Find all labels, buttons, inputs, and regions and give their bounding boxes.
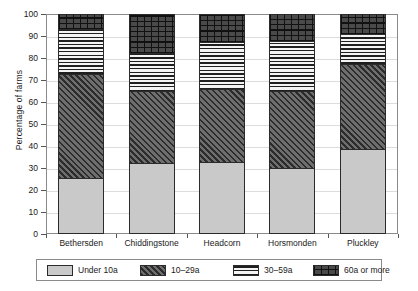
legend-label: 60a or more [344,265,390,275]
stacked-bar[interactable] [340,14,386,234]
legend-swatch-icon [233,265,259,276]
y-axis-label: 0 [0,230,38,239]
y-axis-label: 20 [0,186,38,195]
bar-segment[interactable] [270,42,314,92]
y-axis-label: 40 [0,142,38,151]
y-axis-label: 60 [0,98,38,107]
stacked-bar[interactable] [269,14,315,234]
bar-group [199,14,245,234]
stacked-bar-chart: Percentage of farms 01020304050607080901… [0,0,418,291]
bar-segment[interactable] [270,15,314,42]
bar-segment[interactable] [341,150,385,233]
legend-item[interactable]: Under 10a [47,265,118,276]
y-axis-label: 10 [0,208,38,217]
bar-segment[interactable] [341,65,385,150]
bar-segment[interactable] [341,35,385,66]
legend-label: 10–29a [171,265,199,275]
y-axis-title: Percentage of farms [14,50,24,170]
bar-segment[interactable] [341,15,385,35]
legend-item[interactable]: 10–29a [140,265,199,276]
legend-swatch-icon [313,265,339,276]
y-axis-label: 70 [0,76,38,85]
legend-label: 30–59a [264,265,292,275]
legend-label: Under 10a [78,265,118,275]
y-axis-label: 50 [0,120,38,129]
stacked-bar[interactable] [58,14,104,234]
bars-layer [46,14,398,234]
bar-group [269,14,315,234]
bar-segment[interactable] [59,30,103,75]
y-axis-label: 100 [0,10,38,19]
bar-group [340,14,386,234]
stacked-bar[interactable] [199,14,245,234]
legend-swatch-icon [47,265,73,276]
y-axis-label: 90 [0,32,38,41]
y-axis-label: 80 [0,54,38,63]
bar-group [129,14,175,234]
bar-segment[interactable] [200,163,244,233]
bar-segment[interactable] [270,92,314,168]
bar-group [58,14,104,234]
bar-segment[interactable] [59,75,103,179]
legend-swatch-icon [140,265,166,276]
stacked-bar[interactable] [129,14,175,234]
legend-item[interactable]: 60a or more [313,265,390,276]
bar-segment[interactable] [130,92,174,164]
bar-segment[interactable] [130,54,174,92]
legend-item[interactable]: 30–59a [233,265,292,276]
bar-segment[interactable] [200,90,244,163]
bar-segment[interactable] [59,15,103,30]
bar-segment[interactable] [270,169,314,233]
x-axis-label-pluckley: Pluckley [318,238,408,248]
chart-legend: Under 10a10–29a30–59a60a or more [36,259,382,281]
bar-segment[interactable] [130,164,174,233]
bar-segment[interactable] [130,15,174,54]
bar-segment[interactable] [200,43,244,90]
bar-segment[interactable] [200,15,244,43]
bar-segment[interactable] [59,179,103,234]
x-axis-tick [398,234,399,238]
y-axis-label: 30 [0,164,38,173]
